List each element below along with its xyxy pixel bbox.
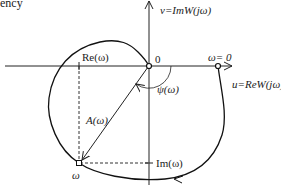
omega-zero-point	[216, 64, 221, 69]
nyquist-diagram	[0, 0, 281, 185]
re-label: Re(ω)	[82, 52, 109, 63]
origin-point	[147, 64, 152, 69]
omega-label: ω	[72, 170, 80, 181]
origin-label: 0	[155, 54, 161, 65]
v-axis-label: v=ImW(jω)	[160, 5, 211, 16]
omega-zero-label: ω= 0	[208, 52, 231, 63]
phase-label: ψ(ω)	[157, 84, 179, 95]
omega-point	[77, 161, 82, 166]
amplitude-label: A(ω)	[86, 115, 108, 126]
im-label: Im(ω)	[156, 158, 183, 169]
u-axis-label: u=ReW(jω)	[232, 79, 281, 90]
title-fragment: ency	[0, 0, 23, 9]
